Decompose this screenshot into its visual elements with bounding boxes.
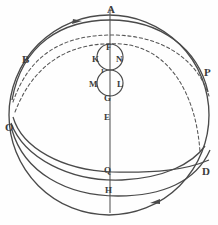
point-label-E: E [104,113,110,122]
point-label-G: G [104,94,111,103]
figure-canvas: A B P O D F K N I M L G E Q H [0,0,218,225]
point-label-D: D [202,166,210,177]
solid-arc-o-to-q [13,117,209,172]
point-label-Q: Q [104,166,111,175]
point-label-B: B [22,54,29,65]
point-label-M: M [89,80,98,89]
point-label-F: F [106,43,112,52]
arrowhead-bottom-icon [150,199,160,204]
point-label-I: I [101,68,104,75]
point-label-P: P [204,67,211,78]
point-label-O: O [5,122,14,133]
point-label-A: A [107,4,115,15]
point-label-N: N [116,55,123,64]
point-label-K: K [92,55,99,64]
point-label-L: L [117,80,123,89]
point-label-H: H [105,186,112,195]
